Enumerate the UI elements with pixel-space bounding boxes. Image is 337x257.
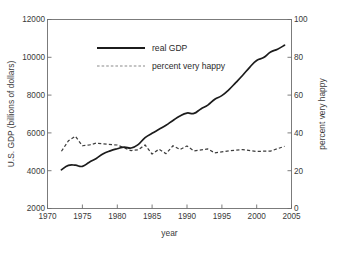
y2-axis-title: percent very happy — [317, 78, 327, 150]
xtick-label: 1975 — [73, 212, 92, 221]
x-axis-title: year — [161, 228, 178, 238]
left-axis-tick-labels: 2000 4000 6000 8000 10000 12000 — [22, 15, 45, 213]
series-percent-very-happy — [61, 136, 284, 154]
y2tick-label: 100 — [294, 15, 308, 24]
ytick-label: 8000 — [27, 91, 46, 100]
legend: real GDP percent very happy — [97, 43, 226, 71]
xtick-label: 2000 — [248, 212, 267, 221]
y2tick-label: 60 — [294, 91, 304, 100]
xtick-label: 2005 — [282, 212, 301, 221]
right-axis-tick-labels: 0 20 40 60 80 100 — [294, 15, 308, 213]
xtick-label: 1995 — [213, 212, 232, 221]
ytick-label: 4000 — [27, 167, 46, 176]
x-axis-tick-labels: 1970 1975 1980 1985 1990 1995 2000 2005 — [38, 212, 301, 221]
x-axis-ticks — [48, 205, 292, 209]
y2tick-label: 40 — [294, 129, 304, 138]
ytick-label: 12000 — [22, 15, 45, 24]
xtick-label: 1980 — [108, 212, 127, 221]
chart-figure: 2000 4000 6000 8000 10000 12000 0 20 40 … — [0, 0, 337, 257]
xtick-label: 1985 — [143, 212, 162, 221]
xtick-label: 1970 — [38, 212, 57, 221]
ytick-label: 6000 — [27, 129, 46, 138]
y2tick-label: 20 — [294, 167, 304, 176]
legend-label-real-gdp: real GDP — [152, 43, 188, 53]
dual-axis-line-chart: 2000 4000 6000 8000 10000 12000 0 20 40 … — [0, 0, 337, 257]
ytick-label: 10000 — [22, 53, 45, 62]
legend-label-percent-very-happy: percent very happy — [152, 61, 226, 71]
xtick-label: 1990 — [178, 212, 197, 221]
left-axis-ticks — [48, 20, 52, 209]
right-axis-ticks — [288, 20, 292, 209]
y-axis-title: U.S. GDP (billions of dollars) — [6, 61, 16, 168]
y2tick-label: 80 — [294, 53, 304, 62]
